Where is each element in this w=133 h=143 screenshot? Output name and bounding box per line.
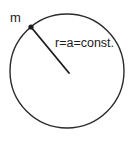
circular-motion-diagram: m r=a=const. — [0, 0, 133, 143]
particle-point-marker — [28, 24, 33, 29]
radius-equation-label: r=a=const. — [55, 36, 114, 50]
mass-label: m — [10, 10, 21, 25]
figure-root: m r=a=const. — [0, 0, 133, 143]
